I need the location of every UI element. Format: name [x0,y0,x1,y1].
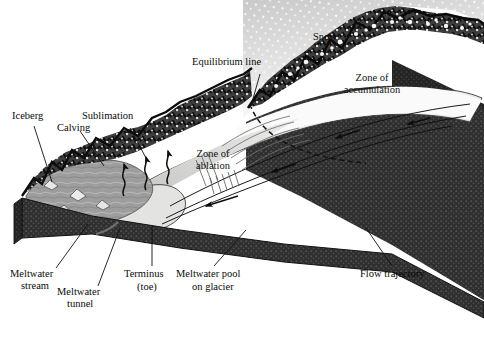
label-meltwater-pool-line2: on glacier [192,281,234,293]
label-zone-accumulation-line1: Zone of [330,72,414,84]
label-zone-ablation-line2: ablation [176,160,250,172]
label-terminus-line2: (toe) [137,281,157,293]
label-iceberg: Iceberg [12,110,43,122]
label-sublimation: Sublimation [82,110,133,122]
label-zone-accumulation-line2: accumulation [330,84,414,96]
glacier-block-diagram: Iceberg Calving Sublimation Equilibrium … [0,0,484,337]
label-calving: Calving [57,122,90,134]
label-equilibrium-line: Equilibrium line [192,56,261,68]
label-zone-ablation-line1: Zone of [176,148,250,160]
label-meltwater-stream-line2: stream [21,280,49,292]
label-meltwater-pool-line1: Meltwater pool [176,268,240,280]
label-flow-trajectory: Flow trajectory [360,268,424,280]
label-terminus-line1: Terminus [124,268,164,280]
label-meltwater-tunnel-line2: tunnel [67,298,93,310]
label-meltwater-stream-line1: Meltwater [10,268,53,280]
label-meltwater-tunnel-line1: Meltwater [57,286,100,298]
label-snow: Snow [313,31,337,43]
